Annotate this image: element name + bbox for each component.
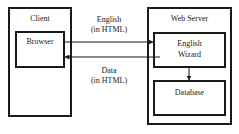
connector-arrows xyxy=(0,0,239,134)
